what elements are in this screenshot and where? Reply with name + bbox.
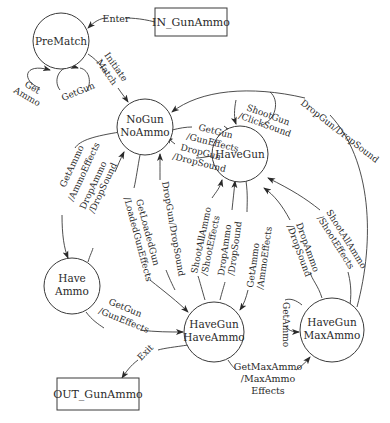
edge-maxammo-to-havegun-drop bbox=[310, 272, 322, 298]
edge-exit bbox=[158, 345, 188, 350]
label-hgha-to-nogun: DropGun/DropSound bbox=[160, 181, 187, 278]
edge-hgha-to-nogun bbox=[166, 270, 175, 290]
state-haveammo-line2: Ammo bbox=[54, 285, 89, 297]
edge-maxammo-to-havegun-shoot bbox=[348, 272, 351, 305]
label-getmaxammo-3: Effects bbox=[251, 385, 284, 396]
state-havegun-haveammo: HaveGun HaveAmmo bbox=[183, 302, 244, 362]
terminal-in-label: IN_GunAmmo bbox=[152, 16, 230, 29]
edge-nogun-to-havegun bbox=[172, 127, 192, 130]
terminal-out-gunammo: OUT_GunAmmo bbox=[53, 378, 143, 410]
edge-prematch-getgun bbox=[57, 67, 78, 90]
label-maxammo-to-nogun: DropGun/DropSound bbox=[299, 98, 381, 165]
label-getmaxammo-1: GetMaxAmmo bbox=[234, 361, 303, 372]
state-nogun-noammo: NoGun NoAmmo bbox=[117, 99, 173, 155]
state-prematch-label: PreMatch bbox=[35, 35, 87, 47]
state-hgma-line1: HaveGun bbox=[307, 316, 357, 328]
state-hgha-line2: HaveAmmo bbox=[183, 331, 244, 343]
state-hgha-line1: HaveGun bbox=[189, 318, 239, 330]
state-haveammo-line1: Have bbox=[58, 272, 86, 284]
terminal-in-gunammo: IN_GunAmmo bbox=[152, 8, 230, 36]
edge-hgha-to-havegun-drop bbox=[220, 282, 225, 300]
edge-hgha-to-havegun-shoot bbox=[198, 276, 205, 300]
state-nogun-line2: NoAmmo bbox=[120, 126, 169, 138]
edge-nogun-to-hgha bbox=[134, 155, 140, 188]
state-prematch: PreMatch bbox=[33, 13, 89, 69]
label-maxammo-self: GetAmmo bbox=[281, 302, 291, 347]
terminal-out-label: OUT_GunAmmo bbox=[53, 388, 143, 401]
edge-haveammo-to-nogun bbox=[88, 248, 93, 262]
label-getmaxammo-2: /MaxAmmo bbox=[241, 373, 296, 384]
state-havegun-maxammo: HaveGun MaxAmmo bbox=[300, 298, 364, 362]
state-haveammo: Have Ammo bbox=[44, 258, 100, 314]
state-nogun-line1: NoGun bbox=[126, 113, 164, 125]
label-prematch-getgun: GetGun bbox=[60, 80, 96, 102]
edge-havegun-to-hgha bbox=[246, 181, 247, 212]
label-exit: Exit bbox=[135, 342, 155, 362]
state-hgma-line2: MaxAmmo bbox=[304, 329, 361, 341]
label-enter: Enter bbox=[102, 13, 129, 24]
state-diagram: IN_GunAmmo PreMatch NoGun NoAmmo HaveGun… bbox=[0, 0, 390, 423]
